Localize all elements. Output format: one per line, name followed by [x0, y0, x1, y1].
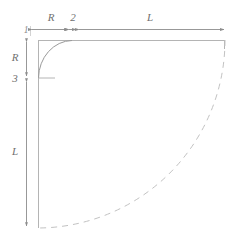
label-left-index: 3 [11, 72, 18, 84]
label-left-length: L [11, 145, 18, 157]
shape-outline [38, 40, 225, 228]
label-left-radius: R [11, 51, 19, 63]
engineering-diagram: 1 R 2 L R 3 L [0, 0, 238, 244]
label-top-gap: 2 [70, 11, 76, 23]
label-corner-index: 1 [24, 25, 29, 35]
label-top-length: L [146, 11, 153, 23]
left-dimension-group: R 3 L [11, 42, 27, 226]
top-dimension-group: 1 R 2 L [24, 11, 224, 36]
outer-dashed-arc [38, 40, 225, 228]
fillet-arc [39, 41, 73, 79]
diagram-canvas: 1 R 2 L R 3 L [0, 0, 238, 244]
label-top-radius: R [47, 11, 55, 23]
